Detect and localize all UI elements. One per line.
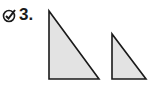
small-triangle [112,34,146,79]
large-triangle [49,11,99,79]
triangles-figure [0,0,160,98]
